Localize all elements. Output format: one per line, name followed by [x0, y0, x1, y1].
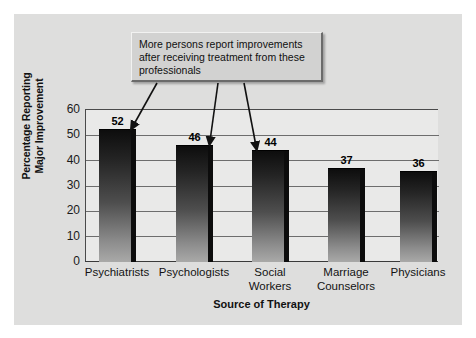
y-tick-label-60: 60 [54, 103, 80, 115]
x-tick-label-physicians: Physicians [363, 266, 473, 280]
bar-value-marriage-counselors: 37 [328, 155, 365, 166]
bar-value-psychiatrists: 52 [99, 116, 136, 127]
bar-psychologists [176, 145, 213, 262]
y-tick-label-50: 50 [54, 128, 80, 140]
y-tick-label-30: 30 [54, 179, 80, 191]
annotation-callout-text: More persons report improvements after r… [139, 38, 317, 78]
y-axis-ticks: 60 50 40 30 20 10 0 [54, 0, 80, 338]
bar-side-shadow [360, 169, 365, 262]
x-axis-title: Source of Therapy [85, 298, 438, 310]
x-tick-line-2: Counselors [291, 280, 401, 294]
y-axis-title-line-2: Major Improvement [33, 51, 46, 201]
bar-value-social-workers: 44 [252, 137, 289, 148]
bar-value-psychologists: 46 [176, 132, 213, 143]
bar-value-physicians: 36 [400, 158, 437, 169]
bar-psychiatrists [99, 129, 136, 262]
x-tick-line-1: Physicians [363, 266, 473, 280]
callout-line-3: professionals [139, 64, 317, 77]
gridline-50 [86, 135, 439, 136]
callout-line-2: after receiving treatment from these [139, 51, 317, 64]
y-tick-label-40: 40 [54, 154, 80, 166]
bar-marriage-counselors [328, 168, 365, 262]
bar-side-shadow [432, 172, 437, 262]
y-axis-title-line-1: Percentage Reporting [20, 51, 33, 201]
bar-physicians [400, 171, 437, 262]
bar-social-workers [252, 150, 289, 262]
y-tick-label-20: 20 [54, 204, 80, 216]
bar-side-shadow [284, 151, 289, 262]
figure-container: 60 50 40 30 20 10 0 Percentage Reporting… [0, 0, 476, 338]
bar-side-shadow [131, 130, 136, 262]
callout-line-1: More persons report improvements [139, 38, 317, 51]
bar-side-shadow [208, 146, 213, 262]
y-axis-title: Percentage Reporting Major Improvement [20, 51, 52, 201]
y-tick-label-10: 10 [54, 230, 80, 242]
annotation-callout-box: More persons report improvements after r… [131, 32, 323, 82]
